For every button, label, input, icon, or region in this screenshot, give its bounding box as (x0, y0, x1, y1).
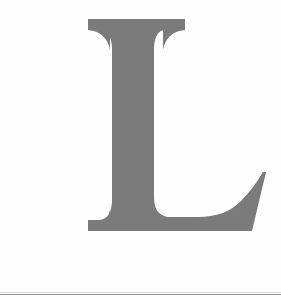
scanned-page (0, 0, 281, 297)
page-bottom-rule (0, 294, 281, 295)
dropcap-letter-l (0, 0, 281, 281)
page-bottom-rule-shadow (0, 292, 281, 293)
